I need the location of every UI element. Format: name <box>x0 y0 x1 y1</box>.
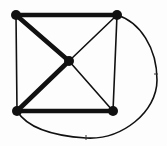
graph-edge-top-left-center <box>16 15 69 61</box>
graph-edge-top-right-bottom-right <box>113 15 117 111</box>
graph-vertex-top-left <box>11 10 21 20</box>
graph-edge-center-bottom-left <box>17 61 69 111</box>
graph-edge-top-left-bottom-left <box>16 15 17 111</box>
graph-vertex-bottom-left <box>12 106 22 116</box>
graph-edge-center-bottom-right <box>69 61 113 111</box>
graph-vertex-bottom-right <box>108 106 118 116</box>
graph-vertex-center <box>64 56 74 66</box>
graph-vertex-top-right <box>112 10 122 20</box>
graph-edge-top-right-center <box>69 15 117 61</box>
diagram-canvas <box>0 0 167 146</box>
graph-svg <box>0 0 167 146</box>
